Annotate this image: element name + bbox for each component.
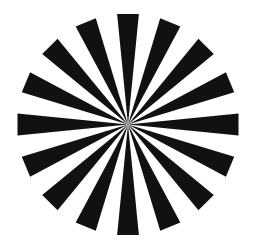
star-spoke bbox=[42, 39, 128, 125]
star-spoke bbox=[42, 125, 128, 211]
siemens-star bbox=[0, 0, 262, 243]
star-spoke bbox=[128, 125, 214, 211]
star-spoke bbox=[128, 39, 214, 125]
spokes-group bbox=[18, 14, 239, 235]
